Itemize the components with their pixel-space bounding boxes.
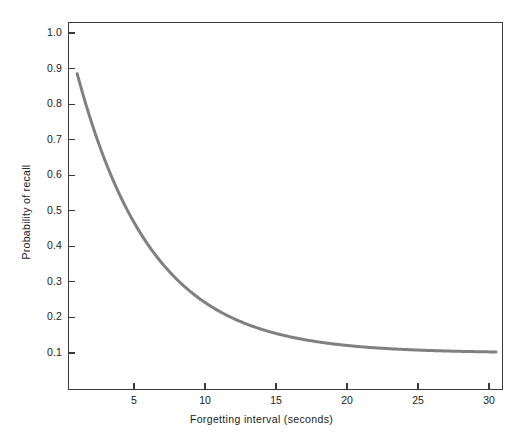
y-tick-mark — [68, 246, 75, 247]
y-tick-mark — [68, 68, 75, 69]
plot-area-frame — [68, 22, 503, 390]
y-tick-label: 0.8 — [18, 98, 62, 109]
x-tick-mark — [346, 383, 347, 390]
y-tick-mark — [68, 210, 75, 211]
x-tick-mark — [488, 383, 489, 390]
x-axis-title: Forgetting interval (seconds) — [0, 413, 523, 425]
y-tick-mark — [68, 281, 75, 282]
x-tick-label: 5 — [114, 395, 154, 406]
x-tick-label: 15 — [256, 395, 296, 406]
forgetting-curve-chart: 0.10.20.30.40.50.60.70.80.91.0 510152025… — [0, 0, 523, 444]
y-tick-mark — [68, 352, 75, 353]
x-tick-label: 20 — [327, 395, 367, 406]
x-tick-label: 25 — [398, 395, 438, 406]
x-tick-mark — [417, 383, 418, 390]
y-tick-label: 0.2 — [18, 311, 62, 322]
y-axis-title: Probability of recall — [20, 132, 32, 292]
y-tick-label: 0.1 — [18, 347, 62, 358]
y-tick-mark — [68, 104, 75, 105]
y-tick-label: 0.9 — [18, 63, 62, 74]
y-tick-label: 1.0 — [18, 27, 62, 38]
y-tick-mark — [68, 32, 75, 33]
x-tick-label: 30 — [469, 395, 509, 406]
y-tick-mark — [68, 317, 75, 318]
y-tick-mark — [68, 139, 75, 140]
x-tick-label: 10 — [185, 395, 225, 406]
x-tick-mark — [275, 383, 276, 390]
x-tick-mark — [133, 383, 134, 390]
y-tick-mark — [68, 175, 75, 176]
x-tick-mark — [204, 383, 205, 390]
